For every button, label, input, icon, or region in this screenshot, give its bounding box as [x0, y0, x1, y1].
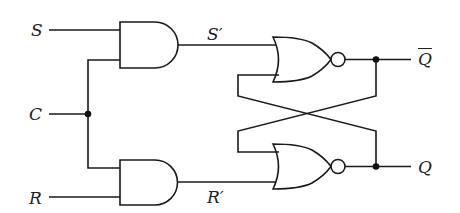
- label-input-s: S: [31, 22, 43, 39]
- nor-top-inversion-bubble: [331, 53, 345, 67]
- nor-gate-bottom: [273, 144, 331, 189]
- and-gate-top: [120, 22, 178, 68]
- wire-c-distribution: [88, 60, 120, 168]
- label-r-prime: R′: [207, 189, 224, 206]
- junction-dot-q-bar: [373, 56, 380, 63]
- circuit-svg: [0, 0, 460, 213]
- junction-dot-q: [373, 163, 380, 170]
- nor-bottom-inversion-bubble: [331, 160, 345, 174]
- label-input-r: R: [29, 190, 42, 207]
- junction-dot-c: [85, 111, 92, 118]
- label-output-q: Q: [418, 159, 432, 176]
- label-s-prime: S′: [207, 26, 223, 43]
- and-gate-bottom: [120, 160, 178, 205]
- label-input-c: C: [29, 106, 42, 123]
- label-output-q-bar: Q: [418, 51, 432, 68]
- nor-gate-top: [273, 37, 331, 82]
- sr-latch-diagram: S C R S′ R′ Q Q: [0, 0, 460, 213]
